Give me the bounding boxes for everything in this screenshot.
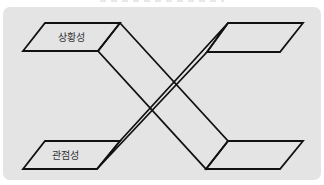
crossing-diagram: 상황성 관점성: [0, 0, 324, 185]
box-bottom-right: [206, 141, 303, 169]
box-top-right: [207, 23, 303, 52]
label-bottom-left: 관점성: [52, 150, 79, 161]
label-top-left: 상황성: [58, 32, 85, 43]
band-bottomleft-to-topright: [97, 23, 228, 169]
